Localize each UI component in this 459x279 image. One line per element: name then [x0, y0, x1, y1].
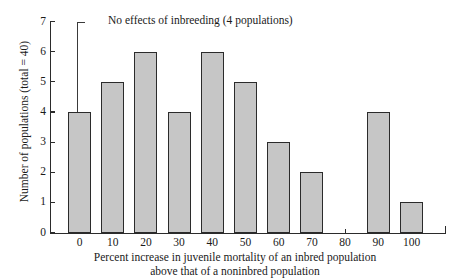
y-tick-5: [51, 81, 55, 82]
bar-0: [68, 112, 91, 233]
y-tick-2: [51, 172, 55, 173]
y-tick-label-3: 3: [30, 136, 46, 148]
bar-90: [367, 112, 390, 233]
y-tick-3: [51, 142, 55, 143]
y-tick-7: [51, 21, 55, 22]
y-tick-label-7: 7: [30, 16, 46, 28]
x-axis-line: [50, 233, 446, 234]
annotation-leader-line-icon: [77, 22, 78, 112]
bar-70: [300, 172, 323, 232]
bar-60: [267, 142, 290, 232]
y-tick-0: [51, 232, 55, 233]
bar-100: [400, 202, 423, 232]
x-axis-title-line-1: Percent increase in juvenile mortality o…: [94, 251, 376, 263]
y-tick-label-5: 5: [30, 76, 46, 88]
y-tick-label-6: 6: [30, 46, 46, 58]
bar-40: [201, 52, 224, 233]
annotation-label: No effects of inbreeding (4 populations): [108, 14, 293, 27]
y-tick-label-0: 0: [30, 227, 46, 239]
bar-50: [234, 82, 257, 233]
y-tick-label-4: 4: [30, 106, 46, 118]
y-tick-4: [51, 111, 55, 112]
x-tick-80: [345, 229, 346, 233]
bar-chart-figure: 01234567 0102030405060708090100 No effec…: [0, 0, 459, 279]
y-tick-1: [51, 202, 55, 203]
y-tick-6: [51, 51, 55, 52]
x-axis-title: Percent increase in juvenile mortality o…: [40, 250, 430, 278]
y-axis-title: Number of populations (total = 40): [18, 12, 31, 232]
y-tick-label-1: 1: [30, 196, 46, 208]
x-axis-end-cap: [445, 226, 446, 233]
bar-30: [168, 112, 191, 233]
x-axis-title-line-2: above that of a noninbred population: [40, 264, 430, 278]
bar-20: [134, 52, 157, 233]
x-tick-label-100: 100: [392, 236, 432, 248]
bar-10: [101, 82, 124, 233]
y-tick-label-2: 2: [30, 166, 46, 178]
annotation-leader-cap-icon: [77, 22, 85, 23]
